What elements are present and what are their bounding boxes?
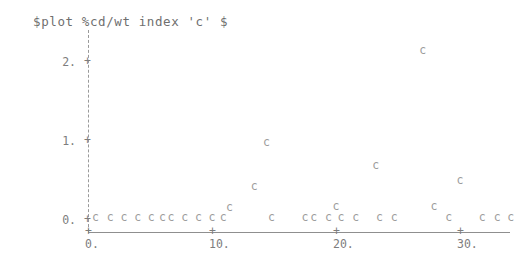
x-axis-tick-label: 0. xyxy=(85,239,99,251)
data-point: c xyxy=(337,213,344,225)
data-point: c xyxy=(352,213,359,225)
data-point: c xyxy=(107,213,114,225)
data-point: c xyxy=(263,138,270,150)
data-point: c xyxy=(134,213,141,225)
x-axis-tick-mark: + xyxy=(209,226,216,238)
data-point: c xyxy=(168,213,175,225)
data-point: c xyxy=(494,213,501,225)
x-axis-tick-label: 30. xyxy=(457,239,478,251)
data-point: c xyxy=(268,213,275,225)
data-point: c xyxy=(120,213,127,225)
y-axis-tick-mark: + xyxy=(84,135,91,147)
data-point: c xyxy=(226,202,233,214)
y-axis-tick-label: 0. xyxy=(62,215,76,227)
plot-window: $plot %cd/wt index 'c' $ 0.+1.+2.+ +0.+1… xyxy=(0,0,523,270)
data-point: c xyxy=(92,213,99,225)
data-point: c xyxy=(479,213,486,225)
x-axis-tick-mark: + xyxy=(333,226,340,238)
y-axis-tick-label: 1. xyxy=(62,136,76,148)
data-point: c xyxy=(457,175,464,187)
data-point: c xyxy=(372,161,379,173)
y-axis-tick-label: 2. xyxy=(62,57,76,69)
data-point: c xyxy=(195,213,202,225)
data-point: c xyxy=(148,213,155,225)
data-point: c xyxy=(333,201,340,213)
data-point: c xyxy=(507,213,514,225)
data-point: c xyxy=(325,213,332,225)
data-point: c xyxy=(430,201,437,213)
x-axis-tick-label: 20. xyxy=(333,239,354,251)
data-point: c xyxy=(302,213,309,225)
data-point: c xyxy=(419,45,426,57)
data-point: c xyxy=(376,213,383,225)
x-axis-tick-label: 10. xyxy=(209,239,230,251)
data-point: c xyxy=(445,213,452,225)
data-point: c xyxy=(159,213,166,225)
x-axis-line xyxy=(88,232,510,233)
x-axis-tick-mark: + xyxy=(457,226,464,238)
data-point: c xyxy=(391,213,398,225)
data-point: c xyxy=(209,213,216,225)
data-point: c xyxy=(181,213,188,225)
x-axis-tick-mark: + xyxy=(85,226,92,238)
data-point: c xyxy=(310,213,317,225)
data-point: c xyxy=(251,181,258,193)
plot-area: 0.+1.+2.+ +0.+10.+20.+30. cccccccccccccc… xyxy=(0,0,523,270)
y-axis-tick-mark: + xyxy=(84,56,91,68)
